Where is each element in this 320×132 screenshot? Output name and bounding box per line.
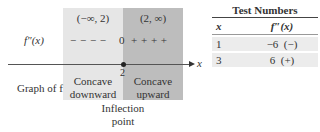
- x-axis-label: x: [197, 57, 202, 69]
- positive-signs: + + + +: [131, 34, 168, 46]
- axis-arrow-icon: [189, 61, 195, 67]
- table-row: 3 6 (+): [212, 53, 318, 67]
- interval-left-label: (−∞, 2): [63, 12, 123, 24]
- row-x: 1: [212, 38, 246, 50]
- inflection-point-label: Inflection point: [100, 102, 146, 128]
- inflection-line1: Inflection: [100, 102, 146, 115]
- second-derivative-label: f″(x): [24, 34, 44, 46]
- value-text: 6: [270, 54, 276, 66]
- concave-right-line1: Concave: [123, 75, 183, 88]
- inflection-line2: point: [100, 115, 146, 128]
- concave-left-line2: downward: [63, 88, 123, 101]
- row-value: 6 (+): [246, 54, 318, 66]
- sign-text: (+): [281, 54, 295, 66]
- x-axis-line: [8, 64, 192, 65]
- sign-text: (−): [284, 38, 298, 50]
- row-value: −6 (−): [246, 38, 318, 50]
- negative-signs: − − − −: [70, 34, 107, 46]
- concave-right-line2: upward: [123, 88, 183, 101]
- row-x: 3: [212, 54, 246, 66]
- table-row: 1 −6 (−): [212, 37, 318, 51]
- concave-upward-label: Concave upward: [123, 75, 183, 101]
- test-numbers-table: Test Numbers x f″(x) 1 −6 (−) 3 6 (+): [212, 4, 318, 67]
- table-title: Test Numbers: [212, 4, 318, 18]
- concave-left-line1: Concave: [63, 75, 123, 88]
- concave-downward-label: Concave downward: [63, 75, 123, 101]
- header-fx: f″(x): [246, 20, 318, 32]
- header-x: x: [212, 20, 246, 32]
- value-text: −6: [267, 38, 279, 50]
- interval-right-label: (2, ∞): [123, 12, 183, 24]
- table-header: x f″(x): [212, 18, 318, 35]
- graph-of-f-label: Graph of f: [17, 82, 63, 94]
- zero-marker: 0: [119, 34, 125, 46]
